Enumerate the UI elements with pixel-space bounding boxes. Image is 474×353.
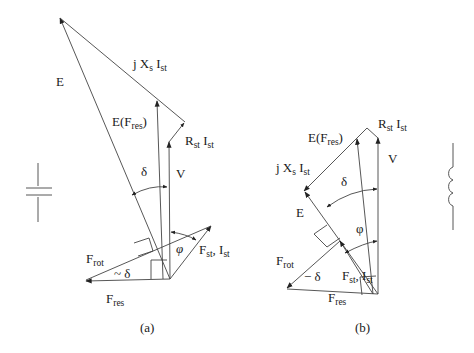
label-fst-ist-a: Fst, Ist [199, 242, 230, 259]
caption-a: (a) [140, 320, 154, 335]
label-delta-b: δ [341, 174, 347, 189]
label-e-b: E [296, 205, 304, 220]
delta-arc-b [327, 189, 377, 207]
phasor-e-fres-a [157, 101, 163, 279]
right-angle-mark-a1 [134, 238, 153, 256]
right-angle-mark-a2 [151, 260, 167, 279]
label-rst-ist-b: Rst Ist [378, 116, 407, 133]
label-minus-delta-a: ~ δ [114, 266, 130, 281]
phasor-rst-ist-b [367, 128, 378, 138]
panel-b: E(Fres) Rst Ist V j Xs Ist δ E φ Frot − … [275, 116, 453, 335]
caption-b: (b) [355, 320, 370, 335]
label-delta-a: δ [141, 164, 147, 179]
phasor-rst-ist-a [169, 123, 184, 142]
panel-a: E j Xs Ist E(Fres) Rst Ist δ V φ Fst, Is… [26, 18, 230, 335]
label-phi-a: φ [176, 241, 183, 256]
label-e-fres-b: E(Fres) [308, 130, 343, 147]
label-frot-b: Frot [276, 253, 294, 270]
label-jxs-ist-b: j Xs Ist [275, 160, 310, 177]
label-e-a: E [56, 74, 64, 89]
phasor-v-a [169, 142, 170, 279]
inductor-icon [449, 143, 453, 230]
label-rst-ist-a: Rst Ist [185, 133, 214, 150]
label-jxs-ist-a: j Xs Ist [132, 56, 167, 73]
label-frot-a: Frot [86, 251, 104, 268]
delta-arc-a [132, 187, 167, 195]
capacitor-icon [26, 163, 52, 222]
phasor-diagram: E j Xs Ist E(Fres) Rst Ist δ V φ Fst, Is… [0, 0, 474, 353]
phi-arc-b [345, 241, 377, 253]
label-fres-a: Fres [106, 291, 125, 308]
phasor-frot-a [86, 226, 211, 280]
label-e-fres-a: E(Fres) [112, 114, 147, 131]
label-minus-delta-b: − δ [304, 269, 321, 284]
phi-arc-a [171, 232, 196, 240]
label-fst-ist-b: Fst, Ist [342, 268, 373, 285]
label-v-a: V [176, 166, 186, 181]
label-phi-b: φ [356, 221, 364, 236]
label-v-b: V [388, 151, 398, 166]
